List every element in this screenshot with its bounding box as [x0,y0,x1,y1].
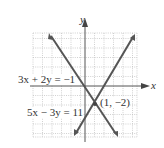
y-axis-label: y [80,14,85,25]
intersection-point [93,102,97,106]
x-axis-arrow-icon [141,83,150,89]
x-axis-label: x [151,80,156,91]
intersection-label: (1, −2) [100,97,130,108]
equation-label-1: 3x + 2y = −1 [18,74,75,85]
equation-label-2: 5x − 3y = 11 [27,107,83,118]
